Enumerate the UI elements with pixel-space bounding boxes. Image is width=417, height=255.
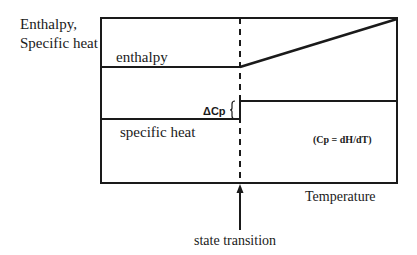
brace-icon bbox=[230, 101, 235, 119]
formula-label: (Cp = dH/dT) bbox=[313, 134, 372, 146]
x-axis-label: Temperature bbox=[305, 189, 376, 204]
enthalpy-label: enthalpy bbox=[116, 49, 168, 65]
y-axis-label-line1: Enthalpy, bbox=[20, 16, 77, 32]
transition-label: state transition bbox=[194, 233, 276, 248]
specific-heat-label: specific heat bbox=[120, 124, 196, 140]
diagram-canvas: Enthalpy, Specific heat enthalpy specifi… bbox=[0, 0, 417, 255]
specific-heat-curve bbox=[101, 101, 397, 119]
transition-arrow bbox=[237, 184, 244, 230]
arrow-head-icon bbox=[237, 184, 244, 193]
y-axis-label-line2: Specific heat bbox=[20, 35, 99, 51]
delta-cp-label: ΔCp bbox=[203, 105, 226, 117]
